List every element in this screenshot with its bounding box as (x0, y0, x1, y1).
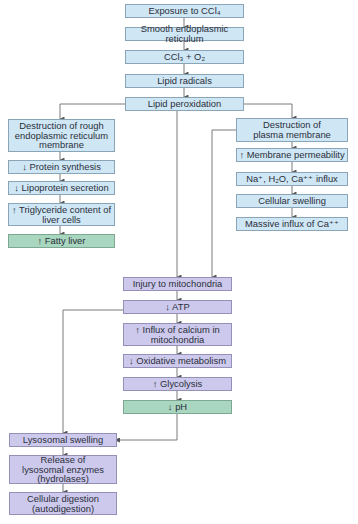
node-label: ↓ ATP (165, 302, 189, 312)
node-triglyceride: ↑ Triglyceride content of liver cells (8, 203, 115, 226)
node-enzyme-release: Release of lysosomal enzymes (hydrolases… (9, 455, 117, 484)
node-label: Lysosomal swelling (23, 435, 103, 445)
node-lipid-peroxidation: Lipid peroxidation (125, 97, 244, 111)
node-ph: ↓ pH (123, 400, 232, 414)
node-lysosomal-swelling: Lysosomal swelling (9, 433, 117, 447)
node-lipid-radicals: Lipid radicals (125, 74, 244, 88)
node-lipoprotein-secretion: ↓ Lipoprotein secretion (8, 181, 115, 195)
node-membrane-permeability: ↑ Membrane permeability (236, 148, 348, 162)
node-ccl3-o2: CCl₃ + O₂ (125, 50, 244, 64)
node-label: ↓ Oxidative metabolism (129, 356, 226, 366)
node-exposure-ccl4: Exposure to CCl₄ (125, 4, 244, 18)
node-label: ↑ Influx of calcium in mitochondria (132, 325, 223, 344)
node-label: Destruction of plasma membrane (251, 120, 333, 139)
node-label: Lipid radicals (157, 76, 212, 86)
node-label: Smooth endoplasmic reticulum (128, 24, 241, 43)
node-label: Lipid peroxidation (148, 99, 222, 109)
node-rer-destruction: Destruction of rough endoplasmic reticul… (8, 119, 115, 152)
node-fatty-liver: ↑ Fatty liver (8, 234, 115, 248)
node-label: ↑ Fatty liver (38, 236, 86, 246)
node-label: ↓ pH (168, 402, 187, 412)
node-label: Injury to mitochondria (133, 279, 223, 289)
node-label: ↓ Lipoprotein secretion (14, 183, 108, 193)
node-label: Massive influx of Ca⁺⁺ (245, 219, 339, 229)
node-label: CCl₃ + O₂ (164, 52, 205, 62)
node-label: ↑ Glycolysis (153, 379, 202, 389)
node-label: Cellular swelling (258, 196, 326, 206)
node-glycolysis: ↑ Glycolysis (123, 377, 232, 391)
node-label: Release of lysosomal enzymes (hydrolases… (22, 455, 104, 484)
node-cellular-swelling: Cellular swelling (236, 194, 348, 208)
node-label: Exposure to CCl₄ (148, 6, 220, 16)
node-label: ↓ Protein synthesis (22, 162, 101, 172)
node-label: Na⁺, H₂O, Ca⁺⁺ influx (246, 174, 338, 184)
node-massive-ca-influx: Massive influx of Ca⁺⁺ (236, 217, 348, 231)
node-protein-synthesis: ↓ Protein synthesis (8, 160, 115, 174)
node-plasma-destruction: Destruction of plasma membrane (236, 118, 348, 142)
node-label: ↑ Membrane permeability (239, 150, 344, 160)
node-label: Cellular digestion (autodigestion) (20, 494, 106, 513)
node-atp: ↓ ATP (123, 300, 232, 314)
node-calcium-influx: ↑ Influx of calcium in mitochondria (123, 323, 232, 346)
node-smooth-er: Smooth endoplasmic reticulum (125, 27, 244, 41)
node-label: ↑ Triglyceride content of liver cells (11, 205, 112, 224)
node-label: Destruction of rough endoplasmic reticul… (11, 121, 112, 150)
node-mito-injury: Injury to mitochondria (123, 277, 232, 291)
node-cellular-digestion: Cellular digestion (autodigestion) (9, 492, 117, 515)
node-oxidative-metabolism: ↓ Oxidative metabolism (123, 354, 232, 368)
node-ion-influx: Na⁺, H₂O, Ca⁺⁺ influx (236, 172, 348, 186)
